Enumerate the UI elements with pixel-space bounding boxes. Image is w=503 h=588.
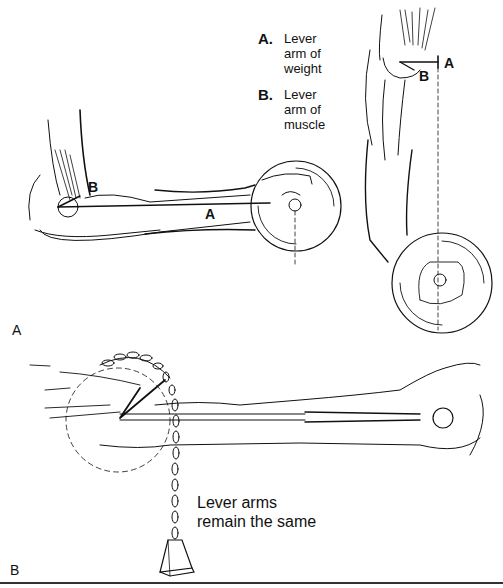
- label-a-left: A: [205, 206, 215, 222]
- legend-text-a: Lever arm of weight: [284, 31, 322, 76]
- legend-text-b-line-3: muscle: [284, 117, 325, 132]
- legend-text-b-line-2: arm of: [284, 102, 325, 117]
- weight-disk-right: [392, 233, 492, 333]
- callout-text: Lever arms remain the same: [197, 493, 316, 531]
- callout-line-2: remain the same: [197, 512, 316, 531]
- arm-with-chain-drawing: [30, 363, 483, 472]
- panel-label-a: A: [12, 322, 21, 338]
- weight-disk-left: [251, 161, 341, 265]
- legend-text-b-line-1: Lever: [284, 87, 325, 102]
- legend-key-a: A.: [258, 30, 273, 47]
- lever-arm-a-line: [58, 203, 270, 207]
- lever-arm-b-line-vertical: [400, 62, 414, 70]
- vertical-arm-drawing: [365, 8, 438, 330]
- label-b-right: B: [419, 68, 429, 84]
- label-a-right: A: [444, 55, 454, 71]
- bell-weight: [160, 540, 194, 576]
- horizontal-arm-drawing: [29, 110, 270, 241]
- legend-key-b: B.: [258, 86, 273, 103]
- legend-text-b: Lever arm of muscle: [284, 87, 325, 132]
- label-b-left: B: [88, 179, 98, 195]
- legend-text-a-line-3: weight: [284, 61, 322, 76]
- lever-arm-b-drawing: [120, 380, 165, 418]
- callout-line-1: Lever arms: [197, 493, 316, 512]
- legend-text-a-line-1: Lever: [284, 31, 322, 46]
- panel-label-b: B: [10, 562, 19, 578]
- bottom-rule: [0, 582, 503, 584]
- legend-text-a-line-2: arm of: [284, 46, 322, 61]
